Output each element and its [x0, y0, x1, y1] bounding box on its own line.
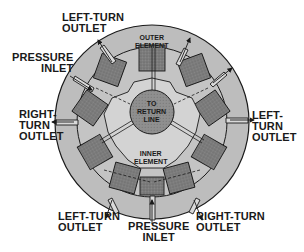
label-left-right-turn-outlet: RIGHT- TURN OUTLET [19, 109, 64, 142]
label-top-left-turn-outlet: LEFT-TURN OUTLET [62, 12, 124, 34]
label-outer-element: OUTER ELEMENT [135, 34, 168, 50]
label-return-line: TO RETURN LINE [137, 100, 166, 124]
label-bottom-left-turn-outlet: LEFT-TURN OUTLET [58, 211, 120, 233]
label-bottom-right-turn-outlet: RIGHT-TURN OUTLET [196, 211, 265, 233]
label-right-left-turn-outlet: LEFT- TURN OUTLET [252, 110, 297, 143]
label-inner-element: INNER ELEMENT [134, 150, 167, 166]
label-left-pressure-inlet: PRESSURE INLET [12, 52, 73, 74]
label-bottom-pressure-inlet: PRESSURE INLET [128, 221, 189, 243]
diagram-stage: LEFT-TURN OUTLET PRESSURE INLET RIGHT- T… [0, 0, 304, 252]
